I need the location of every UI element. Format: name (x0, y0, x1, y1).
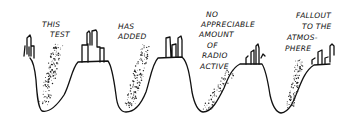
dust-dot (135, 72, 136, 73)
dust-dot (293, 93, 294, 94)
dust-dot (146, 62, 147, 63)
dust-dot (62, 45, 63, 46)
dust-dot (49, 97, 51, 99)
dust-dot (224, 78, 226, 80)
dust-dot (287, 105, 288, 106)
dust-dot (298, 82, 299, 83)
dust-dot (47, 94, 48, 95)
dust-dot (299, 75, 300, 76)
dust-dot (221, 77, 222, 78)
dust-dot (296, 69, 297, 70)
dust-dot (130, 104, 131, 105)
dust-dot (289, 92, 291, 94)
dust-dot (44, 84, 45, 85)
dust-dot (143, 74, 144, 75)
dust-dot (300, 62, 301, 63)
dust-dot (132, 98, 133, 99)
caption-line: ACTIVE (199, 62, 229, 71)
dust-dot (228, 72, 229, 73)
dust-dot (294, 78, 295, 79)
dust-dot (214, 91, 215, 92)
dust-dot (142, 63, 143, 64)
dust-dot (53, 78, 54, 79)
dust-dot (134, 71, 135, 72)
city-far-right (312, 44, 334, 64)
dust-dot (56, 63, 57, 64)
dust-dot (208, 103, 210, 105)
dust-dot (48, 81, 49, 82)
dust-dot (48, 76, 49, 77)
dust-dot (297, 75, 298, 76)
caption-line: PHERE (285, 44, 311, 53)
dust-dot (58, 55, 59, 56)
dust-dot (128, 94, 129, 95)
dust-dot (228, 74, 229, 75)
dust-dot (139, 82, 140, 83)
dust-dot (147, 50, 148, 51)
dust-dot (54, 59, 55, 60)
caption-line: RADIO (202, 51, 228, 60)
dust-dot (46, 73, 47, 74)
dust-dot (48, 72, 49, 73)
dust-dot (130, 97, 131, 98)
dust-dot (225, 75, 226, 76)
dust-dot (50, 71, 52, 73)
dust-dot (214, 89, 215, 90)
caption-line: ATMOS- (286, 33, 318, 42)
dust-dot (52, 64, 53, 65)
caption-panel-2: HAS ADDED (117, 22, 147, 41)
dust-dot (52, 83, 53, 84)
dust-dot (53, 54, 54, 55)
caption-line: NO (206, 10, 218, 19)
dust-dot (55, 59, 56, 60)
dust-dot (49, 66, 50, 67)
dust-dot (148, 46, 149, 47)
dust-dot (291, 84, 293, 86)
dust-dot (128, 97, 129, 98)
dust-dot (43, 85, 44, 86)
dust-dot (293, 105, 295, 107)
dust-dot (131, 103, 132, 104)
dust-dot (45, 84, 46, 85)
dust-dot (208, 108, 209, 109)
dust-dot (139, 69, 140, 70)
dust-dot (295, 75, 297, 77)
dust-dot (44, 100, 45, 101)
dust-dot (232, 75, 234, 77)
dust-dot (56, 73, 57, 74)
dust-dot (56, 54, 57, 55)
dust-dot (51, 53, 52, 54)
dust-dot (208, 99, 209, 100)
dust-dot (145, 64, 146, 65)
dust-dot (223, 84, 224, 85)
dust-dot (232, 73, 233, 74)
dust-dot (137, 80, 138, 81)
caption-line: FALLOUT (296, 11, 332, 20)
dust-dot (218, 97, 219, 98)
dust-dot (44, 97, 45, 98)
dust-dot (203, 108, 204, 109)
dust-dot (297, 60, 298, 61)
dust-dot (136, 98, 137, 99)
dust-dot (131, 105, 132, 106)
dust-dot (301, 65, 302, 66)
dust-dot (48, 84, 49, 85)
dust-dot (55, 56, 56, 57)
dust-dot (208, 107, 209, 108)
dust-dot (222, 83, 223, 84)
dust-dot (300, 59, 301, 60)
dust-dot (142, 61, 143, 62)
dust-dot (49, 67, 51, 69)
dust-dot (133, 95, 134, 96)
dust-dot (298, 77, 299, 78)
dust-dot (140, 58, 141, 59)
dust-dot (130, 93, 132, 95)
dust-dot (287, 101, 288, 102)
dust-dot (210, 95, 212, 97)
dust-dot (135, 78, 136, 79)
dust-dot (138, 61, 139, 62)
dust-dot (224, 75, 225, 76)
dust-dot (58, 47, 59, 48)
dust-dot (43, 94, 44, 95)
dust-dot (147, 55, 149, 57)
